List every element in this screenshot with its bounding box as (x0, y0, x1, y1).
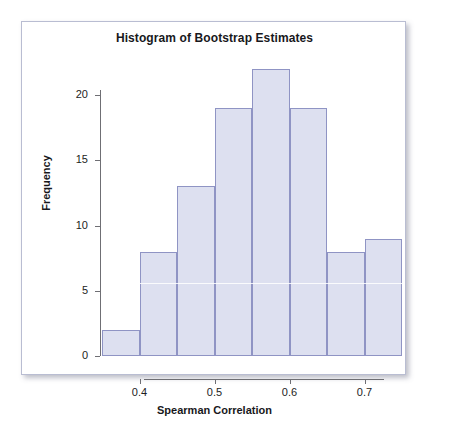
y-axis-line (100, 90, 101, 356)
histogram-bar (290, 108, 328, 356)
histogram-bar (327, 252, 365, 356)
y-axis-tick (95, 356, 100, 357)
y-axis-tick (95, 160, 100, 161)
y-axis-tick (95, 226, 100, 227)
histogram-bar (215, 108, 253, 356)
x-axis-line (144, 379, 384, 380)
x-axis-tick-label: 0.6 (270, 386, 310, 398)
screenshot-root: Histogram of Bootstrap Estimates Frequen… (0, 0, 464, 433)
histogram-bar (140, 252, 178, 356)
x-axis-title: Spearman Correlation (22, 404, 407, 416)
x-axis-tick (140, 379, 141, 384)
y-axis-tick-label: 5 (42, 284, 88, 296)
histogram-bar (252, 69, 290, 356)
x-axis-tick-label: 0.5 (195, 386, 235, 398)
x-axis-tick (290, 379, 291, 384)
figure-card: Histogram of Bootstrap Estimates Frequen… (21, 21, 406, 375)
x-axis-tick-label: 0.7 (345, 386, 385, 398)
x-axis-tick (365, 379, 366, 384)
y-axis-tick-label: 0 (42, 349, 88, 361)
y-axis-tick-label: 10 (42, 219, 88, 231)
y-axis-tick (95, 291, 100, 292)
chart-title: Histogram of Bootstrap Estimates (22, 31, 407, 45)
y-axis-tick-label: 15 (42, 153, 88, 165)
plot-area (102, 69, 402, 356)
histogram-bar (365, 239, 403, 356)
x-axis-tick-label: 0.4 (120, 386, 160, 398)
y-axis-tick-label: 20 (42, 88, 88, 100)
histogram-bar (102, 330, 140, 356)
y-axis-tick (95, 95, 100, 96)
x-axis-tick (215, 379, 216, 384)
histogram-bar (177, 186, 215, 356)
